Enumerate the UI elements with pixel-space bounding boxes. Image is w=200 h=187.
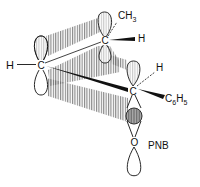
left-c-label: C bbox=[38, 60, 45, 71]
left-h-label: H bbox=[6, 59, 14, 71]
right-c-phenyl-wedge bbox=[138, 89, 165, 99]
right-h-label: H bbox=[156, 62, 163, 73]
top-c-label: C bbox=[102, 35, 109, 46]
right-c-label: C bbox=[130, 86, 137, 97]
left-carbon-group: H C bbox=[6, 36, 48, 95]
oxygen-label: O bbox=[131, 137, 139, 148]
left-p-lobe-bottom bbox=[34, 67, 47, 95]
top-methyl-label: CH3 bbox=[118, 10, 136, 23]
top-carbon-group: C CH3 H bbox=[98, 10, 145, 63]
phenyl-label: C6H5 bbox=[165, 93, 187, 106]
top-h-label: H bbox=[138, 33, 145, 44]
overlap-hatching bbox=[46, 18, 128, 122]
oxygen-lobe-bottom bbox=[127, 147, 141, 176]
top-c-h-wedge bbox=[109, 37, 135, 41]
leaving-group-label: PNB bbox=[148, 140, 169, 151]
orbital-diagram: H C C CH3 H C H C6 bbox=[0, 0, 200, 187]
right-carbon-group: C H C6H5 O PNB bbox=[126, 61, 187, 176]
